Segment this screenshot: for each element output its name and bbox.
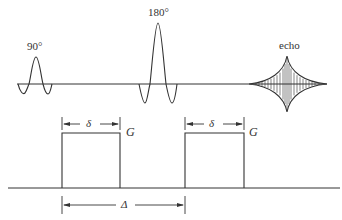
gradient-1-label: G (126, 126, 135, 138)
rf-pulse-180 (139, 23, 177, 103)
echo-label: echo (279, 40, 300, 51)
rf-pulse-90 (18, 57, 52, 94)
big-delta-label: Δ (121, 199, 127, 210)
delta-2-label: δ (209, 118, 214, 129)
gradient-2-label: G (249, 126, 258, 138)
pulse-sequence-diagram (0, 0, 342, 220)
pulse-90-label: 90° (27, 41, 42, 52)
gradient-pulse-1 (62, 133, 120, 188)
delta-2-dimension (185, 117, 244, 130)
pulse-180-label: 180° (148, 7, 169, 18)
gradient-pulse-2 (185, 133, 244, 188)
delta-1-label: δ (86, 118, 91, 129)
